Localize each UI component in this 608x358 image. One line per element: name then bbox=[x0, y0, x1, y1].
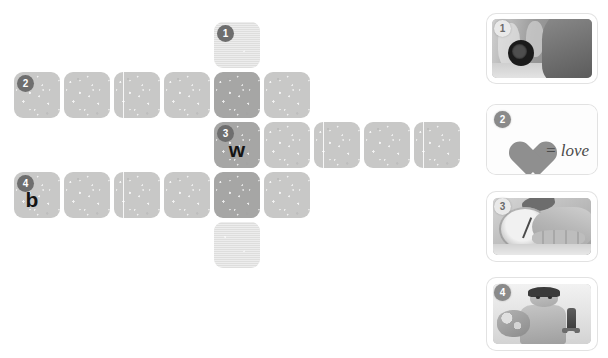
clue-number-badge: 2 bbox=[494, 111, 511, 128]
scale-base bbox=[493, 244, 591, 255]
photo-boy-hair bbox=[528, 287, 559, 297]
cell-number-badge: 4 bbox=[17, 175, 34, 192]
clue-card-3[interactable]: 3 bbox=[487, 192, 597, 261]
crossword-board[interactable]: 123w4b bbox=[0, 0, 480, 358]
crossword-cell[interactable] bbox=[64, 72, 110, 118]
cell-texture bbox=[214, 72, 260, 118]
cell-texture bbox=[114, 72, 160, 118]
cell-number-badge: 2 bbox=[17, 75, 34, 92]
sword-grip-icon bbox=[567, 331, 575, 339]
crossword-cell[interactable]: 2 bbox=[14, 72, 60, 118]
clue-card-2[interactable]: = love 2 bbox=[487, 105, 597, 174]
cell-divider bbox=[423, 122, 424, 168]
cell-texture bbox=[264, 172, 310, 218]
crossword-cell[interactable] bbox=[114, 172, 160, 218]
clue-card-4[interactable]: 4 bbox=[487, 278, 597, 350]
heart-icon bbox=[501, 127, 543, 165]
cell-texture bbox=[314, 122, 360, 168]
clue-number-badge: 1 bbox=[494, 20, 511, 37]
cell-texture bbox=[364, 122, 410, 168]
sword-icon bbox=[567, 308, 576, 330]
crossword-cell[interactable]: 4b bbox=[14, 172, 60, 218]
photo-person bbox=[542, 19, 592, 78]
crossword-cell[interactable] bbox=[214, 72, 260, 118]
crossword-cell[interactable] bbox=[264, 172, 310, 218]
crossword-cell[interactable] bbox=[164, 172, 210, 218]
clue-2-caption: = love bbox=[545, 141, 589, 161]
helmet-icon bbox=[497, 310, 530, 336]
cell-texture bbox=[214, 172, 260, 218]
crossword-cell[interactable] bbox=[264, 72, 310, 118]
cell-texture bbox=[264, 72, 310, 118]
clue-number-badge: 4 bbox=[494, 284, 511, 301]
cell-texture bbox=[114, 172, 160, 218]
crossword-cell[interactable]: 3w bbox=[214, 122, 260, 168]
cell-texture bbox=[214, 222, 260, 268]
cell-texture bbox=[414, 122, 460, 168]
cell-texture bbox=[64, 172, 110, 218]
cell-texture bbox=[164, 172, 210, 218]
crossword-cell[interactable] bbox=[414, 122, 460, 168]
cell-texture bbox=[164, 72, 210, 118]
cell-number-badge: 1 bbox=[217, 25, 234, 42]
crossword-cell[interactable] bbox=[314, 122, 360, 168]
clue-panel: 1 = love 2 3 bbox=[484, 0, 608, 358]
scale-needle-icon bbox=[522, 217, 532, 238]
camera-lens-inner-icon bbox=[512, 44, 527, 59]
crossword-cell[interactable] bbox=[214, 172, 260, 218]
cell-letter: w bbox=[214, 138, 260, 162]
cell-divider bbox=[123, 172, 124, 218]
cell-number-badge: 3 bbox=[217, 125, 234, 142]
crossword-cell[interactable] bbox=[64, 172, 110, 218]
cell-texture bbox=[64, 72, 110, 118]
crossword-cell[interactable] bbox=[214, 222, 260, 268]
cell-divider bbox=[123, 72, 124, 118]
cell-letter: b bbox=[14, 188, 60, 212]
photo-boy-eye bbox=[548, 296, 552, 299]
cell-divider bbox=[323, 122, 324, 168]
clue-number-badge: 3 bbox=[494, 198, 511, 215]
crossword-cell[interactable] bbox=[364, 122, 410, 168]
crossword-cell[interactable] bbox=[164, 72, 210, 118]
cell-texture bbox=[264, 122, 310, 168]
crossword-cell[interactable] bbox=[264, 122, 310, 168]
crossword-cell[interactable]: 1 bbox=[214, 22, 260, 68]
crossword-cell[interactable] bbox=[114, 72, 160, 118]
clue-card-1[interactable]: 1 bbox=[487, 14, 597, 83]
